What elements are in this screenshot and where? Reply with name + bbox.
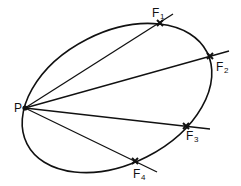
chord-line-f1 xyxy=(25,14,173,108)
ellipse-curve xyxy=(0,0,237,186)
label-f1: F xyxy=(152,6,159,20)
label-f4: F xyxy=(133,167,140,181)
chords xyxy=(25,14,229,172)
ellipse-diagram: PF1F2F3F4 xyxy=(0,0,241,186)
label-f2-subscript: 2 xyxy=(224,66,229,75)
chord-line-f3 xyxy=(25,108,210,129)
label-f3-subscript: 3 xyxy=(194,135,199,144)
label-f1-subscript: 1 xyxy=(160,12,165,21)
label-f3: F xyxy=(186,129,193,143)
ellipse xyxy=(0,0,237,186)
point-p-marker xyxy=(22,105,27,110)
label-f2: F xyxy=(216,60,223,74)
label-f4-subscript: 4 xyxy=(141,173,146,182)
label-p: P xyxy=(14,101,22,115)
diagram-canvas: PF1F2F3F4 xyxy=(0,0,241,186)
